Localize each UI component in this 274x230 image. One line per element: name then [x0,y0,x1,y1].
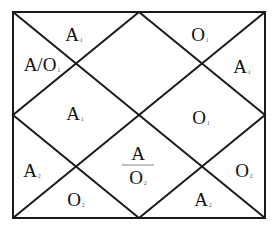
label-left-upper: A/O1 [24,55,61,74]
label-mid-left: A1 [66,104,84,123]
fraction-numerator: A [122,144,154,165]
fraction-denominator: O2 [122,166,154,187]
label-bottom-left: O2 [67,190,85,209]
label-bottom-right: A2 [194,190,212,209]
label-right-lower: O2 [235,161,253,180]
label-right-upper: A1 [233,57,251,76]
label-left-lower: A2 [23,161,41,180]
label-top-left: A1 [65,25,83,44]
diagram-lines [0,0,274,230]
label-top-right: O1 [191,25,209,44]
center-fraction: A O2 [122,144,154,187]
label-mid-right: O1 [192,108,210,127]
